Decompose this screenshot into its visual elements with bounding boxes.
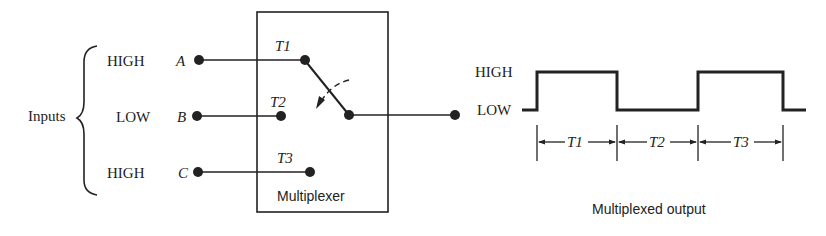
input-a-level: HIGH	[107, 53, 145, 69]
contact-t2	[276, 111, 286, 121]
contact-t2-label: T2	[270, 94, 286, 110]
input-b-name: B	[177, 109, 186, 125]
inputs-label: Inputs	[28, 108, 66, 124]
waveform-high-label: HIGH	[475, 64, 513, 80]
contact-t3-label: T3	[277, 150, 293, 166]
contact-t3	[305, 167, 315, 177]
output-caption: Multiplexed output	[592, 201, 706, 217]
waveform-low-label: LOW	[477, 102, 512, 118]
interval-t2-label: T2	[649, 134, 665, 150]
output-node	[450, 110, 460, 120]
multiplexer-label: Multiplexer	[277, 188, 345, 204]
input-c-level: HIGH	[107, 165, 145, 181]
interval-t1-label: T1	[567, 134, 583, 150]
interval-t3-label: T3	[733, 134, 749, 150]
multiplexer-diagram: Inputs HIGH LOW HIGH A B C Multiplexer T…	[0, 0, 826, 236]
output-waveform	[522, 72, 806, 110]
switch-arm	[307, 63, 349, 115]
input-c-name: C	[178, 165, 189, 181]
inputs-brace	[77, 46, 97, 195]
contact-t1-label: T1	[275, 38, 291, 54]
input-a-name: A	[175, 53, 186, 69]
input-b-level: LOW	[116, 109, 151, 125]
